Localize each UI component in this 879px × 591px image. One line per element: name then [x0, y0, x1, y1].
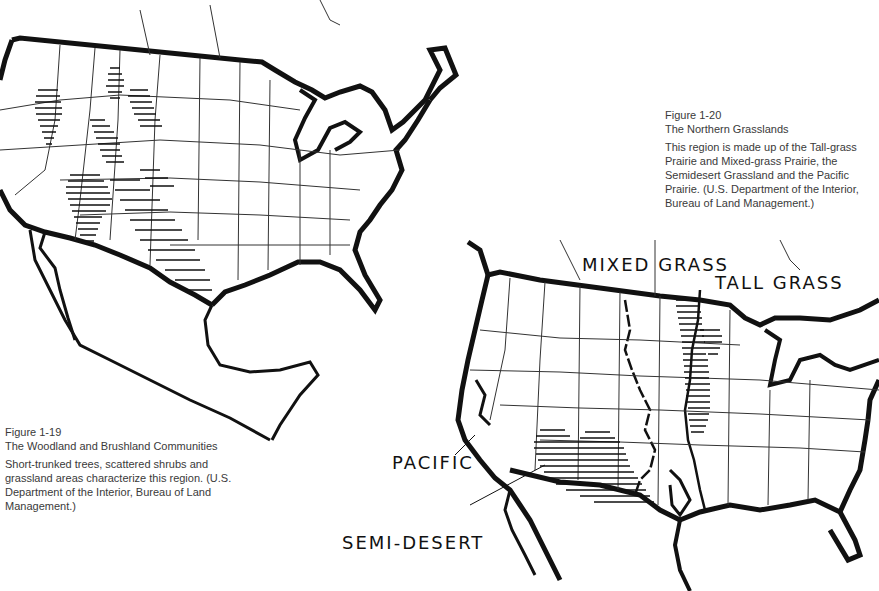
figure-description: Short-trunked trees, scattered shrubs an…: [5, 457, 245, 513]
label-semi-desert: SEMI-DESERT: [342, 532, 484, 553]
figure-title: The Woodland and Brushland Communities: [5, 439, 245, 453]
grassland-hatching: [534, 300, 722, 502]
label-pacific: PACIFIC: [392, 452, 474, 473]
figure-description: This region is made up of the Tall-grass…: [665, 140, 879, 210]
figure-1-20-caption: Figure 1-20 The Northern Grasslands This…: [665, 108, 879, 210]
label-tall-grass: TALL GRASS: [715, 272, 844, 293]
woodland-map: [0, 0, 456, 440]
label-mixed-grass: MIXED GRASS: [582, 254, 729, 275]
figure-title: The Northern Grasslands: [665, 122, 879, 136]
figure-1-19-caption: Figure 1-19 The Woodland and Brushland C…: [5, 425, 245, 513]
figure-number: Figure 1-20: [665, 108, 879, 122]
figure-number: Figure 1-19: [5, 425, 245, 439]
